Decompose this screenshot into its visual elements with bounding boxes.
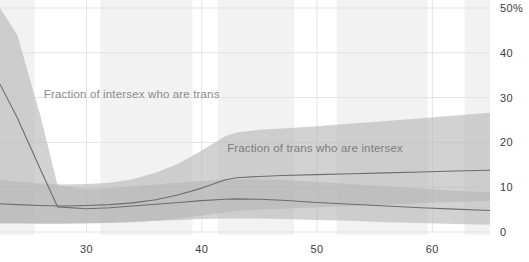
annotation-fraction-of-trans-who-are-intersex: Fraction of trans who are intersex [227,143,403,155]
y-tick-label-0: 0 [500,227,507,238]
annotation-fraction-of-intersex-who-are-trans: Fraction of intersex who are trans [44,89,220,101]
chart-root: 01020304050% 30405060 Fraction of inters… [0,0,529,262]
y-tick-label-50: 50% [500,3,523,14]
y-tick-label-10: 10 [500,182,513,193]
x-tick-label-50: 50 [311,244,324,255]
plot-svg [0,0,490,235]
y-axis: 01020304050% [492,0,529,240]
x-axis: 30405060 [0,236,490,262]
x-tick-label-60: 60 [426,244,439,255]
x-tick-label-30: 30 [80,244,93,255]
x-tick-label-40: 40 [195,244,208,255]
y-tick-label-20: 20 [500,137,513,148]
y-tick-label-40: 40 [500,48,513,59]
y-tick-label-30: 30 [500,93,513,104]
plot-area [0,0,490,235]
